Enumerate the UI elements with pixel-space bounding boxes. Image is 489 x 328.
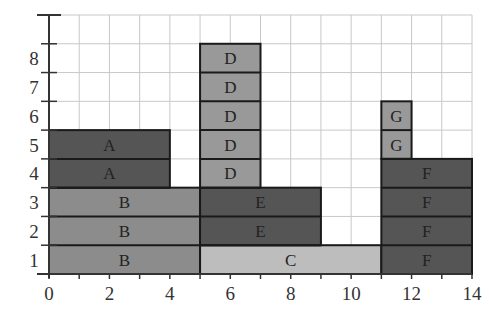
x-tick-label: 6	[226, 283, 236, 304]
block-label: F	[422, 222, 431, 241]
block-chart: BBBAACEEDDDDDFFFFGG 02468101214 12345678	[0, 0, 489, 328]
block-label: A	[103, 136, 116, 155]
y-tick-label: 3	[29, 192, 39, 213]
block-c: C	[200, 245, 381, 274]
block-label: D	[224, 107, 236, 126]
block-label: E	[255, 222, 265, 241]
y-tick-labels: 12345678	[29, 48, 39, 270]
x-tick-label: 4	[165, 283, 175, 304]
block-label: B	[119, 251, 130, 270]
block-label: B	[119, 193, 130, 212]
block-b: BBB	[49, 188, 200, 274]
block-f: FFFF	[381, 159, 472, 274]
x-tick-label: 0	[44, 283, 54, 304]
y-tick-label: 6	[29, 106, 39, 127]
y-tick-label: 8	[29, 48, 39, 69]
x-tick-label: 14	[463, 283, 483, 304]
block-label: G	[390, 107, 402, 126]
y-tick-label: 5	[29, 135, 39, 156]
block-d: DDDDD	[200, 44, 260, 188]
block-g: GG	[381, 101, 411, 159]
block-label: G	[390, 136, 402, 155]
block-label: D	[224, 136, 236, 155]
block-label: F	[422, 193, 431, 212]
x-tick-label: 12	[402, 283, 421, 304]
block-label: A	[103, 164, 116, 183]
x-tick-labels: 02468101214	[44, 283, 482, 304]
block-label: F	[422, 164, 431, 183]
block-a: AA	[49, 130, 170, 188]
block-e: EE	[200, 188, 321, 246]
block-label: D	[224, 49, 236, 68]
block-label: D	[224, 78, 236, 97]
blocks: BBBAACEEDDDDDFFFFGG	[49, 44, 472, 274]
y-tick-label: 1	[29, 250, 39, 271]
x-tick-label: 10	[342, 283, 361, 304]
block-label: F	[422, 251, 431, 270]
x-tick-label: 8	[286, 283, 296, 304]
y-tick-label: 4	[29, 163, 39, 184]
block-label: C	[285, 251, 296, 270]
block-label: D	[224, 164, 236, 183]
block-label: B	[119, 222, 130, 241]
y-tick-label: 2	[29, 221, 39, 242]
y-tick-label: 7	[29, 77, 39, 98]
block-label: E	[255, 193, 265, 212]
x-tick-label: 2	[105, 283, 115, 304]
